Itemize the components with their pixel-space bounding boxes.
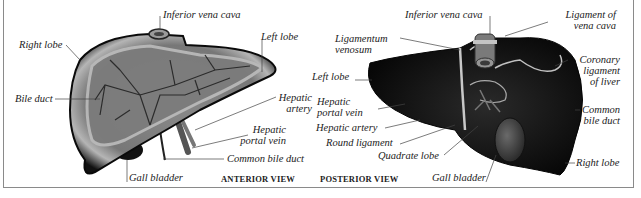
label-anterior-inferior-vena-cava: Inferior vena cava <box>163 9 241 20</box>
label-posterior-ligament-of-vena-cava: Ligament of vena cava <box>548 9 616 31</box>
label-posterior-inferior-vena-cava: Inferior vena cava <box>405 9 483 20</box>
label-line: of liver <box>568 76 620 87</box>
label-anterior-hepatic-portal-vein: Hepatic portal vein <box>236 124 286 146</box>
label-posterior-ligamentum-venosum: Ligamentum venosum <box>335 33 388 55</box>
label-line: artery <box>268 103 312 114</box>
label-line: Hepatic <box>236 124 286 135</box>
caption-posterior-view: POSTERIOR VIEW <box>320 174 398 184</box>
label-anterior-common-bile-duct: Common bile duct <box>227 153 304 164</box>
label-posterior-hepatic-portal-vein: Hepatic portal vein <box>317 96 363 118</box>
posterior-gall-bladder-shape <box>495 118 525 162</box>
label-anterior-left-lobe: Left lobe <box>261 31 298 42</box>
label-anterior-bile-duct: Bile duct <box>15 93 53 104</box>
label-line: Common <box>578 104 620 115</box>
anterior-liver <box>70 29 276 174</box>
label-posterior-round-ligament: Round ligament <box>326 137 393 148</box>
label-posterior-common-bile-duct: Common bile duct <box>578 104 620 126</box>
label-line: bile duct <box>578 115 620 126</box>
label-posterior-quadrate-lobe: Quadrate lobe <box>378 150 439 161</box>
label-anterior-hepatic-artery: Hepatic artery <box>268 92 312 114</box>
label-posterior-right-lobe: Right lobe <box>576 157 619 168</box>
label-line: Ligament of <box>548 9 616 20</box>
label-line: ligament <box>568 65 620 76</box>
label-line: Hepatic <box>268 92 312 103</box>
label-line: portal vein <box>236 135 286 146</box>
label-line: Coronary <box>568 54 620 65</box>
label-anterior-gall-bladder: Gall bladder <box>129 172 183 183</box>
label-posterior-coronary-ligament: Coronary ligament of liver <box>568 54 620 87</box>
label-line: Ligamentum <box>335 33 388 44</box>
label-line: venosum <box>335 44 388 55</box>
label-line: vena cava <box>548 20 616 31</box>
anterior-bile-duct-shape <box>160 130 165 160</box>
label-line: Hepatic <box>317 96 363 107</box>
label-posterior-left-lobe: Left lobe <box>312 71 349 82</box>
label-line: portal vein <box>317 107 363 118</box>
caption-anterior-view: ANTERIOR VIEW <box>221 174 295 184</box>
label-anterior-right-lobe: Right lobe <box>19 39 62 50</box>
label-posterior-gall-bladder: Gall bladder <box>432 172 486 183</box>
label-posterior-hepatic-artery: Hepatic artery <box>316 122 378 133</box>
